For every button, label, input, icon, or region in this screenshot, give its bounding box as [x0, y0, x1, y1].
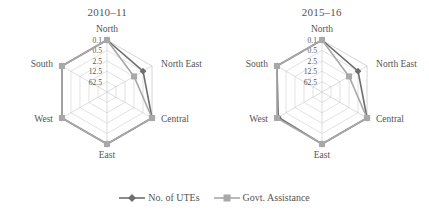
- chart-panel-2010-11: 2010–11 62.512.52.50.50.1NorthNorth East…: [0, 0, 215, 184]
- radar-svg-right: 62.512.52.50.50.1NorthNorth EastCentralE…: [215, 20, 429, 180]
- square-marker: [364, 115, 370, 121]
- category-axis-label: West: [249, 114, 268, 124]
- square-marker: [346, 73, 352, 79]
- legend-item-utes: No. of UTEs: [119, 192, 199, 204]
- radar-plot-right: 62.512.52.50.50.1NorthNorth EastCentralE…: [215, 20, 429, 180]
- category-axis-label: North: [310, 24, 332, 34]
- square-marker: [149, 115, 155, 121]
- category-axis-label: East: [313, 150, 330, 160]
- category-axis-label: South: [245, 59, 267, 69]
- category-axis-label: South: [31, 59, 53, 69]
- legend-label-govt-assistance: Govt. Assistance: [243, 193, 310, 203]
- category-axis-label: East: [99, 150, 116, 160]
- category-axis-label: North East: [161, 59, 202, 69]
- square-marker: [273, 63, 279, 69]
- legend-label-utes: No. of UTEs: [148, 193, 199, 203]
- category-axis-label: Central: [161, 114, 189, 124]
- category-axis-label: Central: [376, 114, 404, 124]
- radar-chart-figure: 2010–11 62.512.52.50.50.1NorthNorth East…: [0, 0, 429, 212]
- chart-panels: 2010–11 62.512.52.50.50.1NorthNorth East…: [0, 0, 429, 184]
- category-axis-label: North: [96, 24, 118, 34]
- square-marker: [319, 37, 325, 43]
- square-marker: [273, 115, 279, 121]
- chart-legend: No. of UTEs Govt. Assistance: [0, 184, 429, 212]
- chart-panel-2015-16: 2015–16 62.512.52.50.50.1NorthNorth East…: [215, 0, 429, 184]
- radar-svg-left: 62.512.52.50.50.1NorthNorth EastCentralE…: [0, 20, 215, 180]
- axis-spoke: [276, 92, 321, 118]
- category-axis-label: West: [34, 114, 53, 124]
- square-marker: [104, 37, 110, 43]
- axis-spoke: [107, 92, 152, 118]
- radial-tick-label: 62.5: [89, 78, 102, 87]
- legend-item-govt-assistance: Govt. Assistance: [214, 192, 310, 204]
- category-axis-label: North East: [376, 59, 417, 69]
- radial-tick-label: 2.5: [307, 57, 317, 66]
- radial-tick-label: 12.5: [303, 67, 316, 76]
- radial-tick-label: 2.5: [93, 57, 103, 66]
- square-marker: [319, 141, 325, 147]
- axis-spoke: [322, 92, 367, 118]
- square-marker: [131, 73, 137, 79]
- axis-spoke: [62, 92, 107, 118]
- chart-title-right: 2015–16: [215, 6, 429, 18]
- radar-plot-left: 62.512.52.50.50.1NorthNorth EastCentralE…: [0, 20, 215, 180]
- square-marker: [59, 115, 65, 121]
- square-marker: [104, 141, 110, 147]
- square-marker: [59, 63, 65, 69]
- square-marker: [214, 192, 240, 204]
- radial-tick-label: 12.5: [89, 67, 102, 76]
- chart-title-left: 2010–11: [0, 6, 215, 18]
- diamond-marker: [119, 192, 145, 204]
- radial-tick-label: 62.5: [303, 78, 316, 87]
